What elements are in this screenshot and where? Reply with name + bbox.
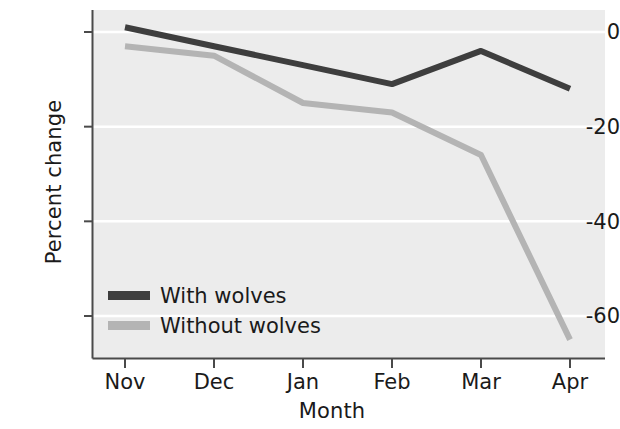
x-axis-title: Month: [92, 399, 572, 423]
legend-label-without-wolves: Without wolves: [160, 314, 321, 338]
y-tick-label-minus60: -60: [550, 304, 620, 328]
legend-label-with-wolves: With wolves: [160, 284, 287, 308]
x-tick-label-mar: Mar: [436, 370, 526, 394]
x-tick-label-feb: Feb: [347, 370, 437, 394]
x-tick-label-apr: Apr: [525, 370, 615, 394]
y-tick-label-minus40: -40: [550, 210, 620, 234]
line-chart: Percent change 0 -20 -40 -60 Nov Dec Jan…: [0, 0, 620, 429]
plot-area: [0, 0, 620, 429]
x-tick-label-jan: Jan: [258, 370, 348, 394]
y-tick-label-minus20: -20: [550, 115, 620, 139]
y-tick-label-0: 0: [550, 20, 620, 44]
legend-swatch-without-wolves: [108, 321, 150, 330]
y-axis-title: Percent change: [42, 32, 66, 332]
legend-swatch-with-wolves: [108, 291, 150, 300]
x-tick-label-dec: Dec: [169, 370, 259, 394]
x-tick-label-nov: Nov: [80, 370, 170, 394]
